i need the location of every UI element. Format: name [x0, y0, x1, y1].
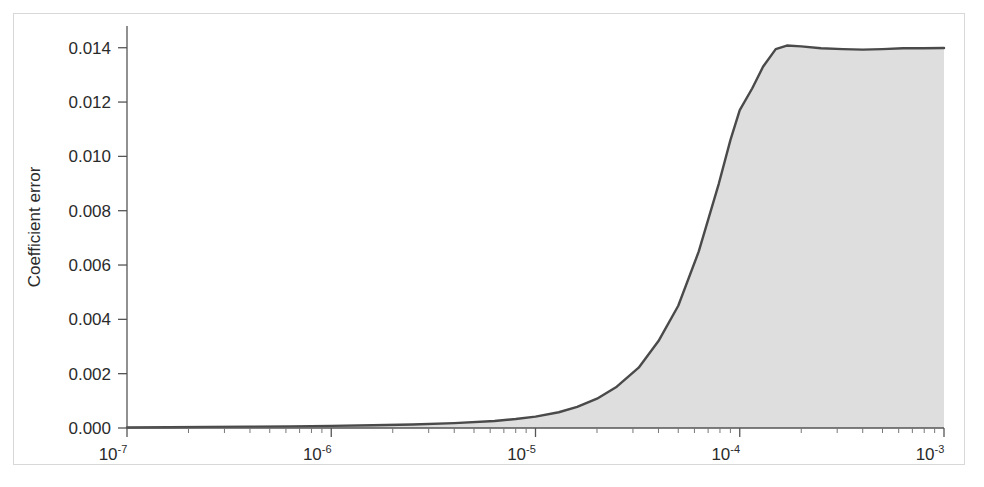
y-axis-tick-labels: 0.0000.0020.0040.0060.0080.0100.0120.014	[68, 39, 111, 438]
x-tick-label: 10-6	[303, 443, 332, 464]
y-axis-label-text: Coefficient error	[25, 166, 44, 287]
x-tick-label-exponent: -4	[730, 443, 740, 455]
figure-root: 10-710-610-510-410-3 0.0000.0020.0040.00…	[0, 0, 984, 487]
x-tick-label: 10-7	[99, 443, 128, 464]
x-axis-minor-ticks	[188, 428, 934, 433]
x-axis-tick-labels: 10-710-610-510-410-3	[99, 443, 945, 464]
x-axis: 10-710-610-510-410-3	[99, 428, 945, 464]
x-tick-label-exponent: -5	[526, 443, 536, 455]
y-tick-label: 0.010	[68, 147, 111, 166]
y-tick-label: 0.008	[68, 202, 111, 221]
y-tick-label: 0.004	[68, 310, 111, 329]
x-tick-label-exponent: -6	[322, 443, 332, 455]
x-tick-label-exponent: -7	[118, 443, 128, 455]
x-tick-label-exponent: -3	[935, 443, 945, 455]
y-tick-label: 0.012	[68, 93, 111, 112]
y-tick-label: 0.000	[68, 419, 111, 438]
y-tick-label: 0.014	[68, 39, 111, 58]
x-tick-label: 10-4	[711, 443, 740, 464]
x-tick-label: 10-3	[916, 443, 945, 464]
series-area-fill	[127, 46, 944, 428]
chart-canvas: 10-710-610-510-410-3 0.0000.0020.0040.00…	[0, 0, 984, 487]
x-tick-label: 10-5	[507, 443, 536, 464]
y-axis-label: Coefficient error	[25, 166, 44, 287]
coefficient-error-area	[127, 46, 944, 428]
y-axis-ticks	[118, 48, 127, 428]
y-tick-label: 0.006	[68, 256, 111, 275]
y-axis: 0.0000.0020.0040.0060.0080.0100.0120.014	[68, 26, 127, 438]
y-tick-label: 0.002	[68, 365, 111, 384]
